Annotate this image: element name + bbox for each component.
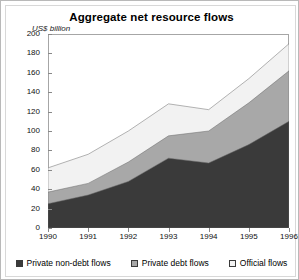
x-axis-tick-labels: 1990199119921993199419951996 — [6, 232, 297, 246]
y-axis-tick: 120 — [27, 108, 40, 116]
x-axis-tick-mark — [128, 228, 129, 232]
legend-label: Private non-debt flows — [27, 258, 111, 268]
y-axis-tick: 80 — [31, 146, 40, 154]
y-axis-tick: 160 — [27, 69, 40, 77]
y-axis-tick: 200 — [27, 30, 40, 38]
stacked-area-series — [48, 34, 289, 228]
x-axis-tick-mark — [209, 228, 210, 232]
legend-label: Official flows — [240, 258, 288, 268]
x-axis-tick: 1995 — [240, 232, 258, 241]
y-axis-tick-mark — [48, 53, 52, 54]
x-axis-tick-mark — [88, 228, 89, 232]
chart-title: Aggregate net resource flows — [6, 11, 297, 23]
x-axis-tick: 1993 — [160, 232, 178, 241]
plot-area — [48, 34, 289, 228]
y-axis-tick: 100 — [27, 127, 40, 135]
chart-inner-border: Aggregate net resource flows US$ billion… — [5, 5, 296, 277]
x-axis-tick: 1991 — [79, 232, 97, 241]
legend-private-non-debt-flows[interactable]: Private non-debt flows — [16, 258, 111, 268]
y-axis-tick-mark — [48, 131, 52, 132]
y-axis-tick-mark — [48, 112, 52, 113]
x-axis-tick-mark — [48, 228, 49, 232]
y-axis-tick: 0 — [36, 224, 40, 232]
legend-label: Private debt flows — [142, 258, 209, 268]
legend-swatch-icon — [16, 260, 23, 267]
y-axis-tick-mark — [48, 34, 52, 35]
y-axis-tick: 140 — [27, 88, 40, 96]
x-axis-tick-mark — [289, 228, 290, 232]
y-axis-tick: 180 — [27, 49, 40, 57]
y-axis-tick: 60 — [31, 166, 40, 174]
chart-legend: Private non-debt flowsPrivate debt flows… — [6, 258, 297, 268]
x-axis-tick-mark — [169, 228, 170, 232]
y-axis-tick-labels: 020406080100120140160180200 — [6, 34, 44, 228]
x-axis-tick: 1994 — [200, 232, 218, 241]
legend-private-debt-flows[interactable]: Private debt flows — [131, 258, 209, 268]
y-axis-tick-mark — [48, 170, 52, 171]
chart-card: Aggregate net resource flows US$ billion… — [0, 0, 299, 280]
y-axis-tick-mark — [48, 73, 52, 74]
x-axis-tick: 1992 — [119, 232, 137, 241]
y-axis-tick: 40 — [31, 185, 40, 193]
y-axis-tick-mark — [48, 189, 52, 190]
x-axis-tick-mark — [249, 228, 250, 232]
x-axis-tick: 1990 — [39, 232, 57, 241]
y-axis-tick-mark — [48, 150, 52, 151]
legend-official-flows[interactable]: Official flows — [229, 258, 288, 268]
y-axis-tick-mark — [48, 92, 52, 93]
legend-swatch-icon — [131, 260, 138, 267]
y-axis-tick: 20 — [31, 205, 40, 213]
y-axis-tick-mark — [48, 209, 52, 210]
legend-swatch-icon — [229, 260, 236, 267]
x-axis-tick: 1996 — [280, 232, 298, 241]
